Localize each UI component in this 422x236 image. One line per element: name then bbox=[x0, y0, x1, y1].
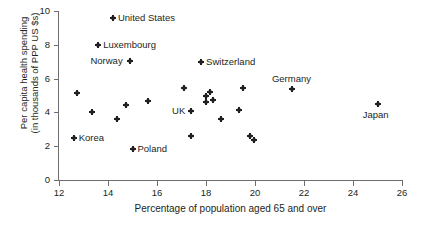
data-point bbox=[237, 108, 241, 112]
x-tick bbox=[206, 181, 207, 186]
data-point bbox=[182, 86, 186, 90]
y-tick-label: 0 bbox=[28, 175, 50, 185]
x-tick bbox=[353, 181, 354, 186]
x-tick-label: 12 bbox=[44, 188, 74, 198]
data-point-label: Luxembourg bbox=[103, 40, 156, 50]
data-point bbox=[199, 60, 203, 64]
y-axis-title: Per capita health spending (in thousands… bbox=[18, 0, 40, 158]
data-point-label: Korea bbox=[79, 133, 104, 143]
data-point bbox=[208, 90, 212, 94]
data-point bbox=[252, 138, 256, 142]
x-tick bbox=[59, 181, 60, 186]
data-point bbox=[189, 134, 193, 138]
x-tick bbox=[402, 181, 403, 186]
x-tick-label: 18 bbox=[191, 188, 221, 198]
data-point bbox=[290, 87, 294, 91]
data-point bbox=[75, 91, 79, 95]
data-point bbox=[189, 109, 193, 113]
x-tick-label: 14 bbox=[93, 188, 123, 198]
x-axis-title: Percentage of population aged 65 and ove… bbox=[59, 203, 402, 214]
x-tick bbox=[255, 181, 256, 186]
x-tick bbox=[108, 181, 109, 186]
data-point-label: Switzerland bbox=[206, 57, 255, 67]
data-point bbox=[72, 136, 76, 140]
data-point bbox=[204, 94, 208, 98]
data-point-label: Japan bbox=[363, 110, 389, 120]
x-tick-label: 24 bbox=[338, 188, 368, 198]
data-point-label: Germany bbox=[272, 74, 311, 84]
data-point bbox=[115, 117, 119, 121]
y-axis-title-line2: (in thousands of PPP US $s) bbox=[29, 13, 40, 134]
x-tick-label: 16 bbox=[142, 188, 172, 198]
x-tick-label: 22 bbox=[289, 188, 319, 198]
x-axis-line bbox=[58, 180, 403, 181]
x-tick bbox=[304, 181, 305, 186]
data-point bbox=[248, 134, 252, 138]
data-point bbox=[211, 98, 215, 102]
data-point bbox=[131, 147, 135, 151]
x-tick-label: 26 bbox=[387, 188, 417, 198]
data-point bbox=[128, 59, 132, 63]
data-point-label: Poland bbox=[138, 144, 168, 154]
data-point bbox=[241, 86, 245, 90]
x-tick bbox=[157, 181, 158, 186]
data-point bbox=[90, 110, 94, 114]
scatter-plot-area: United StatesLuxembourgNorwaySwitzerland… bbox=[59, 11, 402, 180]
x-tick-label: 20 bbox=[240, 188, 270, 198]
data-point bbox=[376, 102, 380, 106]
chart-figure: 0246810 1214161820222426 United StatesLu… bbox=[0, 0, 422, 236]
data-point bbox=[124, 103, 128, 107]
data-point bbox=[146, 99, 150, 103]
data-point bbox=[96, 43, 100, 47]
data-point-label: UK bbox=[172, 106, 185, 116]
data-point bbox=[219, 117, 223, 121]
data-point-label: Norway bbox=[90, 56, 122, 66]
data-point bbox=[111, 16, 115, 20]
data-point bbox=[204, 100, 208, 104]
caption-partial bbox=[250, 226, 422, 236]
y-axis-title-line1: Per capita health spending bbox=[18, 17, 29, 130]
data-point-label: United States bbox=[118, 13, 175, 23]
